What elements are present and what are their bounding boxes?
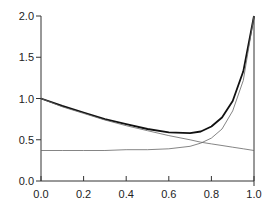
- x-tick-label: 1.0: [246, 188, 261, 200]
- line-chart: 0.00.51.01.52.0 0.00.20.40.60.81.0: [0, 0, 274, 217]
- y-tick-label: 0.5: [19, 134, 34, 146]
- y-tick-label: 2.0: [19, 10, 34, 22]
- plot-lines: [41, 16, 254, 151]
- x-tick-label: 0.6: [161, 188, 176, 200]
- y-tick-label: 1.0: [19, 93, 34, 105]
- axes: [36, 16, 254, 186]
- y-tick-label: 1.5: [19, 51, 34, 63]
- series-line-1: [41, 99, 254, 151]
- x-tick-labels: 0.00.20.40.60.81.0: [33, 188, 261, 200]
- x-tick-label: 0.8: [204, 188, 219, 200]
- y-tick-labels: 0.00.51.01.52.0: [19, 10, 34, 187]
- x-tick-label: 0.2: [76, 188, 91, 200]
- series-line-0: [41, 16, 254, 133]
- y-tick-label: 0.0: [19, 175, 34, 187]
- x-tick-label: 0.4: [119, 188, 134, 200]
- x-tick-label: 0.0: [33, 188, 48, 200]
